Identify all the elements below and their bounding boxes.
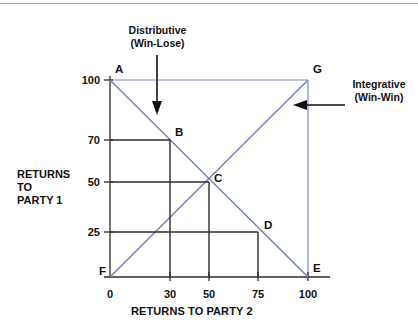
corner-label-g: G	[313, 63, 322, 77]
integrative-arrow-icon	[293, 100, 345, 110]
y-axis-title-line-2: TO	[17, 181, 70, 194]
corner-label-f: F	[99, 265, 106, 279]
distributive-annotation-line-1: Distributive	[105, 24, 210, 37]
integrative-annotation-line-1: Integrative	[341, 78, 417, 91]
corner-label-e: E	[313, 262, 321, 276]
distributive-arrow-icon	[152, 55, 162, 115]
x-tick-label-0: 0	[93, 288, 127, 301]
x-tick-label-100: 100	[291, 288, 325, 301]
distributive-annotation-line-2: (Win-Lose)	[105, 37, 210, 50]
x-tick-label-50: 50	[192, 288, 226, 301]
y-axis-ticks	[104, 80, 113, 232]
x-tick-label-75: 75	[241, 288, 275, 301]
point-label-b: B	[175, 126, 183, 140]
y-tick-label-70: 70	[66, 134, 100, 147]
y-tick-label-100: 100	[66, 74, 100, 87]
y-tick-label-50: 50	[66, 176, 100, 189]
y-axis-title: RETURNS TO PARTY 1	[17, 168, 70, 207]
figure-root: A G E F B C D 100 70 50 25 0 30 50 75 10…	[0, 0, 418, 324]
y-axis-title-line-3: PARTY 1	[17, 194, 70, 207]
x-tick-label-30: 30	[153, 288, 187, 301]
y-axis-title-line-1: RETURNS	[17, 168, 70, 181]
y-tick-label-25: 25	[66, 226, 100, 239]
x-axis-title: RETURNS TO PARTY 2	[131, 305, 253, 318]
point-label-d: D	[264, 219, 272, 233]
point-label-c: C	[214, 172, 222, 186]
distributive-annotation: Distributive (Win-Lose)	[105, 24, 210, 50]
guide-lines-b	[110, 140, 170, 277]
corner-label-a: A	[115, 63, 123, 77]
integrative-annotation-line-2: (Win-Win)	[341, 91, 417, 104]
integrative-annotation: Integrative (Win-Win)	[341, 78, 417, 104]
